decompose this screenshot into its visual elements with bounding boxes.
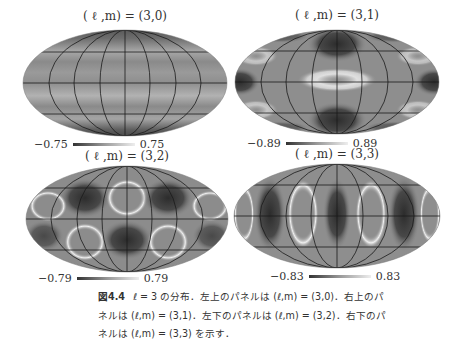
map-panel-3-1 [220, 26, 454, 138]
map-panel-3-3 [230, 162, 445, 270]
colorbar-max: 0.83 [376, 270, 401, 283]
caption-line-3: ネルは (ℓ,m) = (3,3) を示す． [98, 325, 458, 343]
graticule-grid [20, 28, 230, 138]
caption-line-2: ネルは (ℓ,m) = (3,1)．左下のパネルは (ℓ,m) = (3,2)．… [98, 307, 458, 326]
panel-title-3-2: ( ℓ ,m) = (3,2) [85, 149, 169, 164]
map-panel-3-0 [20, 28, 230, 138]
panel-title-3-1: ( ℓ ,m) = (3,1) [295, 8, 379, 23]
figure-number: 図4.4 [98, 291, 125, 302]
colorbar-gradient [77, 277, 139, 280]
colorbar-3-0: −0.75 0.75 [34, 138, 164, 151]
caption-line-1: 図4.4ℓ = 3 の分布．左上のパネルは (ℓ,m) = (3,0)．右上のパ [98, 288, 458, 307]
colorbar-max: 0.75 [140, 138, 165, 151]
map-panel-3-2 [20, 164, 235, 274]
colorbar-3-1: −0.89 0.89 [247, 137, 377, 150]
panel-title-3-0: ( ℓ ,m) = (3,0) [83, 9, 167, 24]
colorbar-3-2: −0.79 0.79 [38, 272, 168, 285]
colorbar-3-3: −0.83 0.83 [270, 270, 400, 283]
colorbar-gradient [73, 143, 135, 146]
colorbar-gradient [286, 142, 348, 145]
colorbar-min: −0.83 [270, 270, 304, 283]
colorbar-max: 0.89 [353, 137, 378, 150]
colorbar-min: −0.75 [34, 138, 68, 151]
colorbar-min: −0.89 [247, 137, 281, 150]
colorbar-max: 0.79 [144, 272, 169, 285]
colorbar-gradient [309, 275, 371, 278]
caption-text: ℓ = 3 の分布．左上のパネルは (ℓ,m) = (3,0)．右上のパ [133, 291, 384, 302]
figure-caption: 図4.4ℓ = 3 の分布．左上のパネルは (ℓ,m) = (3,0)．右上のパ… [98, 288, 458, 343]
colorbar-min: −0.79 [38, 272, 72, 285]
